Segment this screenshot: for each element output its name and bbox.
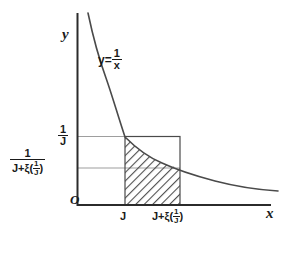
x-tick-main-text: J+ξ( [152,211,173,222]
y-tick-one-over-j-fraction: 1 J [58,124,68,147]
y-tick-one-over-j: 1 J [58,124,68,147]
y-tick-one-over-j-denominator: J [58,136,68,147]
y-tick-one-over-j-plus-xi-numerator: 1 [10,148,45,160]
y-tick-one-over-j-plus-xi-denominator: J+ξ( 1 J ) [10,160,45,178]
curve-equation-fraction: 1 x [112,48,122,71]
plot-canvas [0,0,290,256]
denominator-close-paren: ) [40,163,44,174]
denominator-main-text: J+ξ( [12,163,33,174]
origin-label: O [70,193,79,206]
x-axis-label: x [266,206,274,221]
y-tick-one-over-j-plus-xi-fraction: 1 J+ξ( 1 J ) [10,148,45,178]
x-tick-j-plus-xi: J+ξ( 1 J ) [152,208,183,226]
curve-equation-lhs: y= [98,54,112,66]
reciprocal-curve [88,13,278,191]
figure-container: y x O y= 1 x 1 J 1 J+ξ( 1 J ) J J+ξ( [0,0,290,256]
y-axis-label: y [62,27,69,42]
curve-equation-denominator: x [112,60,122,71]
y-tick-one-over-j-plus-xi: 1 J+ξ( 1 J ) [10,148,45,178]
x-tick-close-paren: ) [180,211,184,222]
curve-equation-label: y= 1 x [98,48,122,71]
x-tick-j: J [120,211,126,222]
